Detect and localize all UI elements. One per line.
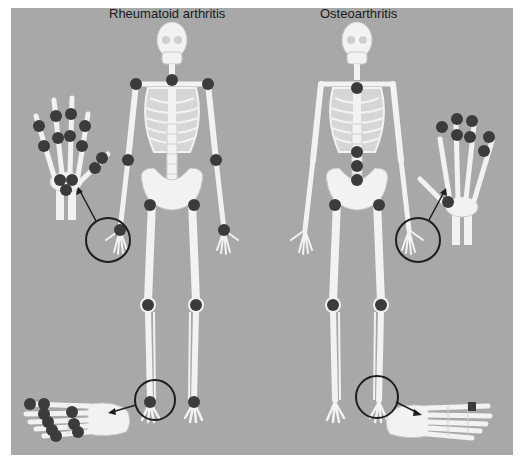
oa-skeleton: [291, 22, 423, 422]
ra-hand-arrow: [80, 191, 96, 221]
oa-foot-inset: [386, 402, 490, 438]
skeleton-illustration: [0, 0, 521, 466]
title-osteoarthritis: Osteoarthritis: [320, 6, 397, 21]
oa-hand-inset: [420, 113, 495, 245]
oa-first-mtp-marker: [468, 402, 476, 411]
oa-hand-callout-circle: [396, 218, 440, 262]
ra-hand-inset: [33, 98, 108, 220]
title-rheumatoid-arthritis: Rheumatoid arthritis: [109, 6, 225, 21]
ra-foot-inset: [24, 398, 130, 442]
ra-skeleton: [106, 22, 238, 422]
